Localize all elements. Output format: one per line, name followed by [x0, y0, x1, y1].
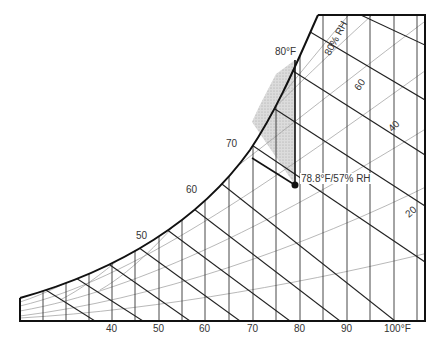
saturation-label-80: 80°F — [275, 46, 296, 57]
psychrometric-chart — [0, 0, 444, 346]
design-point-marker — [292, 182, 299, 189]
x-tick-50: 50 — [153, 323, 164, 334]
x-tick-100: 100°F — [384, 323, 411, 334]
saturation-curve — [20, 15, 318, 298]
saturation-label-70: 70 — [226, 138, 237, 149]
chart-frame — [20, 15, 425, 321]
saturation-label-60: 60 — [186, 184, 197, 195]
grid-lines — [20, 0, 440, 321]
x-tick-80: 80 — [294, 323, 305, 334]
x-tick-70: 70 — [247, 323, 258, 334]
design-point-label: 78.8°F/57% RH — [300, 173, 372, 184]
x-tick-60: 60 — [199, 323, 210, 334]
x-tick-40: 40 — [106, 323, 117, 334]
saturation-label-50: 50 — [136, 230, 147, 241]
x-tick-90: 90 — [341, 323, 352, 334]
